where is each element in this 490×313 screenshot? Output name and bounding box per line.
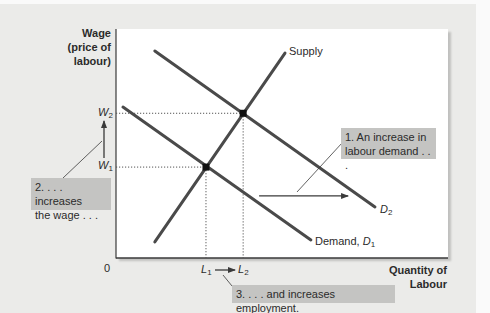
demand-d1-label: Demand, D1 [315, 234, 375, 248]
equilibrium-point [202, 164, 209, 171]
tick-subscript: 1 [108, 164, 112, 173]
label-symbol: D [380, 203, 388, 215]
y-axis-title-line: Wage [68, 26, 111, 40]
callout-employment-increase: 3. . . . and increases employment. [232, 285, 395, 303]
demand-d2-label: D2 [380, 202, 392, 216]
y-axis-title-line: labour) [68, 54, 111, 68]
supply-curve [155, 53, 285, 242]
curves [123, 51, 375, 242]
callout-line: the wage . . . [35, 208, 107, 222]
label-subscript: 1 [371, 240, 375, 249]
tick-subscript: 1 [207, 268, 211, 277]
dotted-guide-lines [116, 113, 243, 258]
callout-demand-increase: 1. An increase in labour demand . . . [341, 128, 436, 159]
x-axis-title: Quantity of Labour [389, 263, 447, 291]
callout-1-leader [297, 143, 342, 192]
tick-subscript: 2 [108, 111, 112, 120]
y-tick-w2: W2 [98, 105, 113, 119]
x-tick-l1: L1 [201, 262, 212, 276]
supply-label: Supply [289, 44, 323, 58]
tick-symbol: W [98, 106, 108, 118]
callout-wage-increase: 2. . . . increases the wage . . . [31, 178, 111, 210]
equilibrium-point [240, 110, 247, 117]
callout-line: 2. . . . increases [35, 180, 107, 208]
callout-line: 1. An increase in [345, 130, 432, 144]
y-tick-w1: W1 [98, 158, 113, 172]
callout-3-leader [223, 275, 232, 286]
label-symbol: D [363, 235, 371, 247]
callout-line: labour demand . . . [345, 144, 432, 172]
y-axis-title: Wage (price of labour) [68, 26, 111, 68]
x-axis-title-line: Quantity of [389, 263, 447, 277]
supply-demand-figure: Wage (price of labour) Quantity of Labou… [0, 0, 490, 313]
tick-subscript: 2 [244, 268, 248, 277]
label-text: Demand, [315, 235, 363, 247]
callout-2-leader [63, 141, 102, 178]
demand-d1-curve [123, 107, 311, 240]
x-tick-l2: L2 [238, 262, 249, 276]
tick-symbol: W [98, 159, 108, 171]
x-axis-title-line: Labour [389, 277, 447, 291]
origin-label: 0 [104, 261, 110, 275]
y-axis-title-line: (price of [68, 40, 111, 54]
label-subscript: 2 [388, 208, 392, 217]
